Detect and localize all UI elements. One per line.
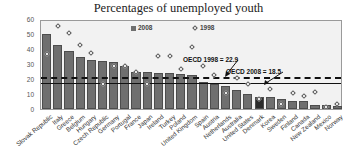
annotation-arrows	[0, 0, 357, 165]
